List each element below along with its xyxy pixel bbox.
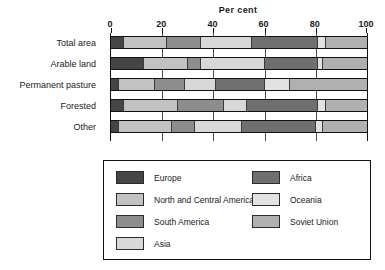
plot-area bbox=[110, 33, 368, 141]
legend-swatch bbox=[116, 193, 144, 206]
category-label-permanent-pasture: Permanent pasture bbox=[0, 80, 96, 90]
bar-segment bbox=[119, 79, 155, 90]
bar-row bbox=[111, 57, 367, 70]
stacked-bar bbox=[111, 57, 367, 70]
stacked-bar bbox=[111, 99, 367, 112]
legend-swatch bbox=[252, 215, 280, 228]
bar-row bbox=[111, 36, 367, 49]
bar-segment bbox=[318, 100, 326, 111]
bar-segment bbox=[326, 37, 367, 48]
legend-item-oceania[interactable]: Oceania bbox=[252, 193, 322, 206]
bar-segment bbox=[323, 121, 367, 132]
bar-segment bbox=[316, 121, 324, 132]
legend-swatch bbox=[116, 237, 144, 250]
bar-segment bbox=[247, 100, 319, 111]
stacked-bar bbox=[111, 120, 367, 133]
legend-item-asia[interactable]: Asia bbox=[116, 237, 171, 250]
stacked-bar bbox=[111, 78, 367, 91]
bar-segment bbox=[172, 121, 195, 132]
bar-segment bbox=[252, 37, 319, 48]
chart-legend: EuropeNorth and Central AmericaSouth Ame… bbox=[103, 160, 371, 260]
bar-segment bbox=[111, 100, 124, 111]
bar-row bbox=[111, 78, 367, 91]
bar-segment bbox=[111, 58, 144, 69]
stacked-bar-chart: Per cent 020406080100 Total areaArable l… bbox=[0, 0, 385, 270]
bar-segment bbox=[188, 58, 201, 69]
bar-segment bbox=[178, 100, 224, 111]
bar-segment bbox=[167, 37, 200, 48]
x-tick-mark bbox=[366, 28, 367, 33]
bar-segment bbox=[265, 58, 319, 69]
legend-item-south-america[interactable]: South America bbox=[116, 215, 209, 228]
x-tick-mark bbox=[111, 28, 112, 33]
bar-segment bbox=[242, 121, 316, 132]
category-label-arable-land: Arable land bbox=[0, 59, 96, 69]
legend-item-north-and-central-america[interactable]: North and Central America bbox=[116, 193, 254, 206]
bar-row bbox=[111, 99, 367, 112]
legend-label: Asia bbox=[154, 239, 171, 249]
stacked-bar bbox=[111, 36, 367, 49]
legend-swatch bbox=[116, 171, 144, 184]
bar-segment bbox=[124, 37, 168, 48]
bar-segment bbox=[111, 37, 124, 48]
category-label-other: Other bbox=[0, 122, 96, 132]
bar-segment bbox=[195, 121, 241, 132]
legend-swatch bbox=[116, 215, 144, 228]
bar-segment bbox=[290, 79, 367, 90]
bar-segment bbox=[326, 100, 367, 111]
bar-segment bbox=[124, 100, 178, 111]
bar-row bbox=[111, 120, 367, 133]
legend-label: South America bbox=[154, 217, 209, 227]
x-tick-label-60: 60 bbox=[259, 19, 269, 29]
bar-segment bbox=[201, 58, 265, 69]
x-tick-label-40: 40 bbox=[207, 19, 217, 29]
bar-segment bbox=[111, 121, 119, 132]
legend-item-africa[interactable]: Africa bbox=[252, 171, 312, 184]
bar-segment bbox=[111, 79, 119, 90]
legend-label: Europe bbox=[154, 173, 181, 183]
legend-label: North and Central America bbox=[154, 195, 254, 205]
chart-title: Per cent bbox=[110, 5, 366, 15]
legend-label: Soviet Union bbox=[290, 217, 338, 227]
bar-segment bbox=[216, 79, 265, 90]
bar-segment bbox=[201, 37, 252, 48]
bar-segment bbox=[155, 79, 186, 90]
bar-segment bbox=[224, 100, 247, 111]
category-label-forested: Forested bbox=[0, 101, 96, 111]
x-tick-label-80: 80 bbox=[310, 19, 320, 29]
bar-segment bbox=[323, 58, 367, 69]
legend-item-europe[interactable]: Europe bbox=[116, 171, 181, 184]
legend-item-soviet-union[interactable]: Soviet Union bbox=[252, 215, 338, 228]
bar-segment bbox=[185, 79, 216, 90]
legend-swatch bbox=[252, 171, 280, 184]
legend-swatch bbox=[252, 193, 280, 206]
legend-label: Africa bbox=[290, 173, 312, 183]
bar-segment bbox=[144, 58, 188, 69]
bar-segment bbox=[318, 37, 326, 48]
legend-label: Oceania bbox=[290, 195, 322, 205]
x-tick-label-20: 20 bbox=[156, 19, 166, 29]
bar-segment bbox=[265, 79, 291, 90]
category-label-total-area: Total area bbox=[0, 38, 96, 48]
bar-segment bbox=[119, 121, 173, 132]
